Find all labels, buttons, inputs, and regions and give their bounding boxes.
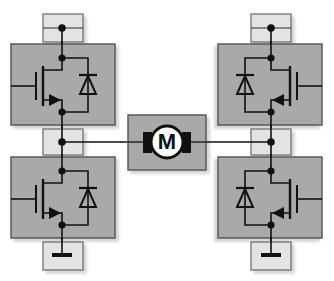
h-bridge-diagram: M — [0, 0, 334, 281]
switch-high-side-left — [11, 41, 115, 128]
motor-label: M — [151, 128, 183, 156]
ground-icon — [52, 253, 72, 257]
switch-low-side-left — [11, 154, 115, 241]
terminal-bottom-left-ground — [43, 238, 83, 270]
switch-high-side-right — [218, 41, 322, 128]
terminal-top-right-supply — [251, 14, 291, 44]
switch-low-side-right — [218, 154, 322, 241]
terminal-top-left-supply — [43, 14, 83, 44]
terminal-bottom-right-ground — [251, 238, 291, 270]
ground-icon — [261, 253, 281, 257]
